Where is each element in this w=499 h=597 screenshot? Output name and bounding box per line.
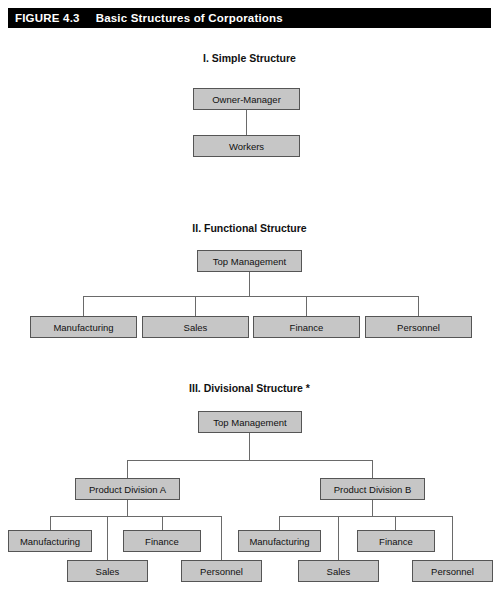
node-personnel-division-b: Personnel <box>412 560 493 582</box>
node-finance-functional: Finance <box>253 316 360 338</box>
node-manufacturing-division-b: Manufacturing <box>238 530 321 552</box>
connector-division-b-drop <box>372 500 373 516</box>
connector-drop-manufacturing-functional <box>83 296 84 316</box>
figure-title: Basic Structures of Corporations <box>96 12 283 24</box>
node-sales-functional: Sales <box>142 316 249 338</box>
connector-drop-finance-functional <box>306 296 307 316</box>
connector-drop-personnel-division-b <box>452 516 453 560</box>
connector-bus-division-b <box>279 516 452 517</box>
connector-drop-manufacturing-division-a <box>50 516 51 530</box>
figure-header-bar: FIGURE 4.3 Basic Structures of Corporati… <box>8 8 491 28</box>
connector-topmgmt-drop-functional <box>249 272 250 296</box>
node-manufacturing-functional: Manufacturing <box>30 316 137 338</box>
node-top-management-functional: Top Management <box>197 250 302 272</box>
connector-drop-division-a <box>127 460 128 478</box>
connector-drop-finance-division-a <box>162 516 163 530</box>
node-finance-division-b: Finance <box>357 530 435 552</box>
node-product-division-a: Product Division A <box>75 478 180 500</box>
connector-owner-to-workers <box>246 110 247 135</box>
section-heading-divisional-structure: III. Divisional Structure * <box>0 382 499 394</box>
node-top-management-divisional: Top Management <box>198 411 302 433</box>
node-sales-division-a: Sales <box>67 560 148 582</box>
connector-drop-manufacturing-division-b <box>279 516 280 530</box>
connector-drop-division-b <box>372 460 373 478</box>
connector-bus-divisions <box>127 460 373 461</box>
node-workers: Workers <box>193 135 300 157</box>
connector-topmgmt-drop-divisional <box>249 433 250 460</box>
connector-drop-sales-division-a <box>107 516 108 560</box>
connector-drop-sales-division-b <box>338 516 339 560</box>
connector-drop-personnel-division-a <box>221 516 222 560</box>
node-owner-manager: Owner-Manager <box>193 88 300 110</box>
node-finance-division-a: Finance <box>123 530 201 552</box>
connector-bus-division-a <box>50 516 221 517</box>
node-manufacturing-division-a: Manufacturing <box>8 530 92 552</box>
connector-drop-personnel-functional <box>418 296 419 316</box>
figure-number-label: FIGURE 4.3 <box>15 12 80 24</box>
figure-container: FIGURE 4.3 Basic Structures of Corporati… <box>0 0 499 597</box>
connector-drop-sales-functional <box>195 296 196 316</box>
node-personnel-division-a: Personnel <box>181 560 262 582</box>
node-product-division-b: Product Division B <box>320 478 425 500</box>
section-heading-simple-structure: I. Simple Structure <box>0 52 499 64</box>
connector-drop-finance-division-b <box>395 516 396 530</box>
node-sales-division-b: Sales <box>298 560 379 582</box>
connector-bus-functional <box>83 296 419 297</box>
section-heading-functional-structure: II. Functional Structure <box>0 222 499 234</box>
node-personnel-functional: Personnel <box>365 316 472 338</box>
connector-division-a-drop <box>127 500 128 516</box>
